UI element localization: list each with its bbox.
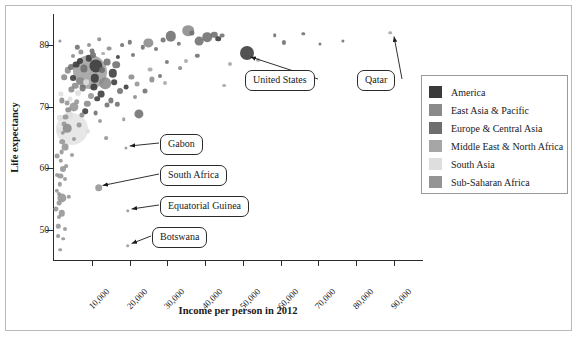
annotation-callout: Equatorial Guinea [160,196,249,217]
chart-screenshot: Life expectancy 5060708010,00020,00030,0… [0,0,578,341]
annotation-leader-lines [0,0,578,341]
annotation-leader [132,205,159,209]
annotation-callout: Qatar [357,70,395,91]
annotation-callout: Gabon [160,134,203,155]
annotation-callout: United States [245,70,315,91]
annotation-leader [394,37,402,79]
annotation-callout: Botswana [152,227,207,248]
annotation-leader [132,236,151,244]
annotation-leader [103,174,159,186]
annotation-callout: South Africa [160,165,227,186]
annotation-leader [130,143,159,146]
